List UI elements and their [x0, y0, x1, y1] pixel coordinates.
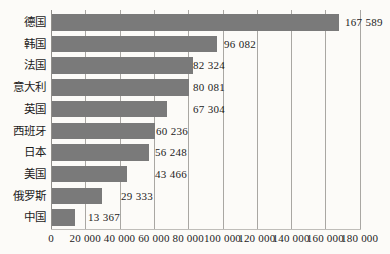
value-label: 80 081 — [193, 79, 225, 96]
x-tick-label: 40 000 — [104, 232, 135, 244]
category-label: 日本 — [0, 144, 46, 161]
bar — [52, 36, 217, 53]
bar — [52, 57, 193, 74]
bar — [52, 123, 155, 140]
x-tick-label: 140 000 — [273, 232, 310, 244]
category-label: 俄罗斯 — [0, 188, 46, 205]
x-tick-label: 180 000 — [341, 232, 378, 244]
gridline — [291, 10, 292, 229]
value-label: 13 367 — [88, 209, 120, 226]
bar — [52, 14, 339, 31]
value-label: 96 082 — [224, 36, 256, 53]
horizontal-bar-chart: 020 00040 00060 00080 000100 000120 0001… — [0, 0, 390, 254]
bar — [52, 166, 127, 183]
category-label: 西班牙 — [0, 123, 46, 140]
x-tick-label: 60 000 — [138, 232, 169, 244]
category-label: 中国 — [0, 209, 46, 226]
category-label: 韩国 — [0, 36, 46, 53]
x-tick-label: 80 000 — [172, 232, 203, 244]
value-label: 29 333 — [121, 188, 153, 205]
value-label: 167 589 — [345, 14, 383, 31]
bar — [52, 209, 75, 226]
category-label: 意大利 — [0, 79, 46, 96]
x-tick-label: 0 — [48, 232, 54, 244]
bar — [52, 144, 149, 161]
category-label: 法国 — [0, 57, 46, 74]
gridline — [257, 10, 258, 229]
x-tick-label: 120 000 — [238, 232, 275, 244]
value-label: 60 236 — [156, 123, 188, 140]
value-label: 43 466 — [155, 166, 187, 183]
bar — [52, 188, 102, 205]
gridline — [325, 10, 326, 229]
bar — [52, 101, 167, 118]
category-label: 德国 — [0, 14, 46, 31]
value-label: 82 324 — [193, 57, 225, 74]
x-axis-line — [51, 229, 361, 230]
x-tick-label: 100 000 — [204, 232, 241, 244]
x-tick-label: 20 000 — [70, 232, 101, 244]
category-label: 美国 — [0, 166, 46, 183]
value-label: 56 248 — [155, 144, 187, 161]
gridline — [360, 10, 361, 229]
x-tick-label: 160 000 — [307, 232, 344, 244]
category-label: 英国 — [0, 101, 46, 118]
value-label: 67 304 — [193, 101, 225, 118]
bar — [52, 79, 189, 96]
